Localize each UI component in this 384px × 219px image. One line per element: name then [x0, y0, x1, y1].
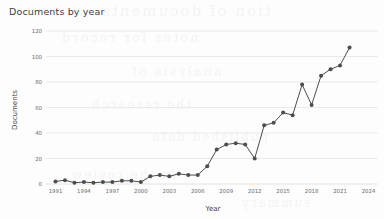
y-axis-title: Documents	[11, 90, 19, 130]
series-markers	[53, 46, 351, 185]
data-point-marker	[329, 67, 333, 71]
data-point-marker	[281, 111, 285, 115]
data-point-marker	[101, 180, 105, 184]
data-point-marker	[129, 179, 133, 183]
data-point-marker	[300, 83, 304, 87]
y-axis-tick-label: 0	[39, 181, 43, 187]
x-axis-tick-label: 2024	[362, 188, 376, 194]
y-axis-tick-label: 60	[35, 105, 42, 111]
x-axis-tick-label: 2006	[191, 188, 205, 194]
data-point-marker	[110, 180, 114, 184]
documents-by-year-line-chart: 020406080100120 199119941997200020032006…	[0, 0, 384, 219]
data-point-marker	[319, 74, 323, 78]
data-point-marker	[196, 173, 200, 177]
data-point-marker	[234, 141, 238, 145]
data-point-marker	[53, 179, 57, 183]
data-point-marker	[139, 180, 143, 184]
gridlines-group	[46, 31, 378, 184]
x-axis-tick-label: 2021	[333, 188, 347, 194]
y-axis-tick-label: 120	[32, 28, 43, 34]
data-point-marker	[158, 173, 162, 177]
x-axis-tick-label: 1997	[106, 188, 120, 194]
x-axis-title: Year	[205, 205, 221, 213]
x-axis-tick-label: 1994	[77, 188, 91, 194]
y-axis-tick-label: 20	[35, 156, 42, 162]
data-point-marker	[224, 142, 228, 146]
data-point-marker	[348, 46, 352, 50]
x-axis-tick-label: 2000	[134, 188, 148, 194]
data-point-marker	[215, 148, 219, 152]
y-axis-tick-label: 100	[32, 54, 43, 60]
x-axis-tick-label: 2009	[219, 188, 233, 194]
x-axis-tick-label: 2018	[305, 188, 319, 194]
chart-page: tion of documents notes for record analy…	[0, 0, 384, 219]
data-point-marker	[186, 173, 190, 177]
data-point-marker	[177, 172, 181, 176]
x-axis-tick-label: 2003	[162, 188, 176, 194]
documents-series	[53, 46, 351, 185]
data-point-marker	[63, 178, 67, 182]
x-axis-tick-label: 2015	[276, 188, 290, 194]
series-line	[55, 48, 349, 183]
y-axis-tick-label: 40	[35, 130, 42, 136]
data-point-marker	[243, 142, 247, 146]
data-point-marker	[338, 63, 342, 67]
data-point-marker	[148, 174, 152, 178]
x-axis-tick-label: 1991	[49, 188, 63, 194]
data-point-marker	[272, 121, 276, 125]
x-axis-tick-labels: 1991199419972000200320062009201220152018…	[49, 188, 376, 194]
data-point-marker	[72, 181, 76, 185]
data-point-marker	[82, 180, 86, 184]
data-point-marker	[120, 179, 124, 183]
data-point-marker	[262, 123, 266, 127]
y-axis-tick-label: 80	[35, 79, 42, 85]
data-point-marker	[310, 103, 314, 107]
x-axis-tick-label: 2012	[248, 188, 262, 194]
data-point-marker	[253, 157, 257, 161]
data-point-marker	[205, 164, 209, 168]
data-point-marker	[91, 181, 95, 185]
data-point-marker	[291, 113, 295, 117]
data-point-marker	[167, 174, 171, 178]
y-axis-tick-labels: 020406080100120	[32, 28, 43, 187]
